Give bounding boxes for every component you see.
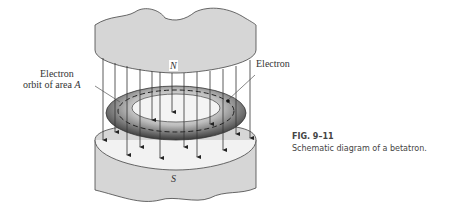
south-pole-label: S: [171, 173, 176, 184]
orbit-label-line2: orbit of area A: [23, 79, 80, 90]
north-pole-label: N: [169, 60, 178, 71]
electron-dot: [226, 99, 230, 103]
area-symbol: A: [74, 79, 80, 90]
betatron-diagram: [0, 0, 466, 207]
figure-number: FIG. 9–11: [292, 132, 334, 141]
electron-label: Electron: [256, 58, 290, 69]
figure-caption: Schematic diagram of a betatron.: [292, 144, 427, 153]
orbit-label-line1: Electron: [40, 68, 74, 79]
orbit-leader-line: [95, 86, 120, 102]
orbit-label-text: orbit of area: [23, 79, 72, 90]
electron-leader-line: [228, 75, 255, 100]
